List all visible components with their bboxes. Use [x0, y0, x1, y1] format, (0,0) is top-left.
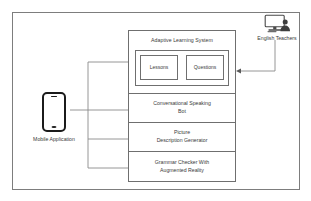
speaking-bot-line-1: Conversational Speaking [153, 100, 211, 108]
mobile-phone-icon [42, 92, 66, 132]
mobile-application-label: Mobile Application [27, 136, 81, 142]
module-adaptive-learning-system[interactable]: Adaptive Learning System Lessons Questio… [129, 31, 235, 94]
module-grammar-checker-ar[interactable]: Grammar Checker With Augmented Reality [129, 152, 235, 181]
module-lessons[interactable]: Lessons [140, 55, 178, 80]
mobile-application-actor[interactable]: Mobile Application [27, 92, 81, 142]
teachers-to-system-line [240, 40, 275, 71]
module-questions[interactable]: Questions [186, 55, 224, 80]
english-teachers-actor[interactable]: English Teachers [248, 14, 306, 41]
adaptive-learning-inner-container: Lessons Questions [135, 50, 229, 86]
adaptive-learning-system-title: Adaptive Learning System [151, 37, 213, 45]
module-picture-description-generator[interactable]: Picture Description Generator [129, 123, 235, 152]
picture-generator-line-1: Picture [157, 129, 208, 137]
diagram-canvas: Adaptive Learning System Lessons Questio… [0, 0, 311, 201]
grammar-checker-line-2: Augmented Reality [155, 167, 209, 175]
system-module-stack: Adaptive Learning System Lessons Questio… [128, 30, 236, 182]
english-teachers-label: English Teachers [248, 35, 306, 41]
grammar-checker-line-1: Grammar Checker With [155, 159, 209, 167]
desktop-user-icon [262, 14, 292, 34]
speaking-bot-line-2: Bot [153, 108, 211, 116]
arrowhead-into-system [236, 69, 241, 74]
module-conversational-speaking-bot[interactable]: Conversational Speaking Bot [129, 94, 235, 123]
picture-generator-line-2: Description Generator [157, 137, 208, 145]
